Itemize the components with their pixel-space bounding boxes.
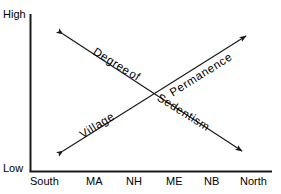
x-tick-ma: MA bbox=[86, 176, 103, 187]
sedentism-permanence-diagram: High Low South MA NH ME NB North Degree … bbox=[0, 0, 281, 194]
x-tick-nb: NB bbox=[204, 176, 219, 187]
x-tick-nh: NH bbox=[126, 176, 142, 187]
x-tick-south: South bbox=[30, 176, 59, 187]
y-axis-high-label: High bbox=[3, 9, 26, 20]
x-tick-me: ME bbox=[166, 176, 183, 187]
y-axis-low-label: Low bbox=[3, 163, 23, 174]
x-tick-north: North bbox=[240, 176, 267, 187]
plot-area bbox=[0, 0, 281, 194]
